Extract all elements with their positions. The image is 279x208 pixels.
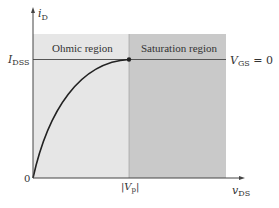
x-axis-arrow-icon — [239, 176, 245, 180]
saturation-region-label: Saturation region — [141, 42, 218, 54]
y-axis-arrow-icon — [31, 7, 35, 13]
y-axis-label: iD — [38, 7, 48, 22]
idss-label: IDSS — [7, 53, 30, 67]
pinch-off-point — [127, 57, 131, 61]
ohmic-region — [33, 34, 129, 178]
origin-label: 0 — [24, 173, 30, 184]
x-axis-label: vDS — [232, 184, 250, 198]
ohmic-region-label: Ohmic region — [52, 42, 113, 54]
jfet-characteristic-diagram: Ohmic region Saturation region iD IDSS V… — [0, 0, 279, 208]
vgs-label: VGS = 0 — [230, 54, 273, 68]
vp-label: |Vp| — [121, 181, 139, 194]
saturation-region — [129, 34, 226, 178]
